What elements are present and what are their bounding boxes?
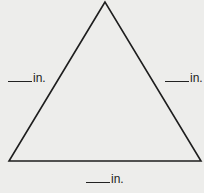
right-side-answer-blank[interactable] — [165, 71, 189, 82]
bottom-side-unit: in. — [111, 172, 124, 186]
left-side-unit: in. — [33, 71, 46, 85]
bottom-side-answer-blank[interactable] — [86, 172, 110, 183]
right-side-length-label: in. — [165, 71, 203, 85]
left-side-answer-blank[interactable] — [8, 71, 32, 82]
triangle-diagram — [0, 0, 204, 193]
left-side-length-label: in. — [8, 71, 46, 85]
right-side-unit: in. — [190, 71, 203, 85]
bottom-side-length-label: in. — [86, 172, 124, 186]
